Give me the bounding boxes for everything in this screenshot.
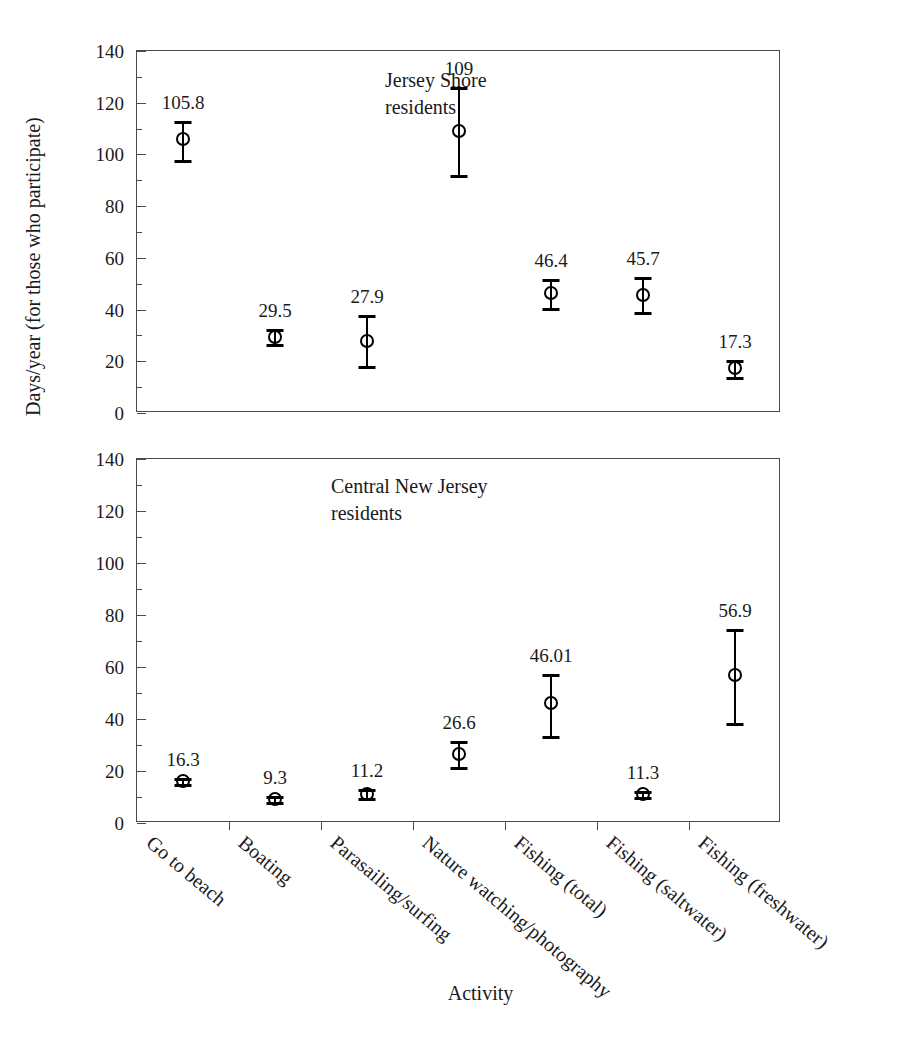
y-tick-minor [137, 77, 142, 78]
y-tick-major [137, 459, 146, 460]
y-tick-label: 140 [96, 42, 125, 61]
data-value-label: 46.4 [534, 251, 567, 270]
error-bar-cap-lower [451, 175, 468, 178]
error-bar-cap-upper [635, 277, 652, 280]
y-tick-label: 20 [105, 762, 124, 781]
panel-annotation-top: Jersey Shore residents [385, 67, 487, 121]
error-bar-cap-lower [727, 723, 744, 726]
y-tick-label: 120 [96, 93, 125, 112]
x-category-label: Nature watching/photography [419, 832, 615, 1001]
y-tick-minor [137, 589, 142, 590]
data-value-label: 16.3 [166, 750, 199, 769]
y-tick-label: 20 [105, 352, 124, 371]
y-tick-minor [137, 284, 142, 285]
x-axis-title: Activity [0, 982, 913, 1005]
y-tick-minor [137, 693, 142, 694]
x-tick [321, 821, 322, 830]
error-bar-cap-upper [727, 629, 744, 632]
y-tick-label: 100 [96, 554, 125, 573]
y-tick-minor [137, 745, 142, 746]
x-axis-title-text: Activity [448, 982, 514, 1004]
error-bar-cap-lower [267, 344, 284, 347]
y-tick-major [137, 413, 146, 414]
data-marker [176, 132, 190, 146]
y-tick-label: 40 [105, 300, 124, 319]
figure: Days/year (for those who participate) 02… [0, 0, 913, 1051]
x-category-label: Go to beach [143, 832, 230, 909]
data-value-label: 11.3 [627, 763, 660, 782]
data-marker [360, 787, 374, 801]
y-tick-minor [137, 129, 142, 130]
y-tick-label: 100 [96, 145, 125, 164]
x-category-label: Boating [235, 832, 296, 888]
error-bar-cap-lower [175, 160, 192, 163]
panel-annotation-bottom: Central New Jersey residents [331, 473, 488, 527]
error-bar-cap-upper [543, 674, 560, 677]
data-marker [268, 792, 282, 806]
error-bar-cap-lower [543, 308, 560, 311]
x-category-label: Fishing (total) [511, 832, 611, 921]
y-tick-major [137, 51, 146, 52]
data-value-label: 45.7 [626, 249, 659, 268]
y-tick-minor [137, 232, 142, 233]
y-axis-title: Days/year (for those who participate) [22, 117, 45, 416]
y-tick-minor [137, 641, 142, 642]
y-tick-major [137, 823, 146, 824]
data-value-label: 26.6 [442, 713, 475, 732]
data-value-label: 56.9 [718, 601, 751, 620]
y-tick-major [137, 258, 146, 259]
data-marker [728, 668, 742, 682]
y-tick-major [137, 206, 146, 207]
y-tick-label: 0 [115, 404, 125, 423]
y-tick-major [137, 719, 146, 720]
data-marker [452, 124, 466, 138]
x-tick [413, 821, 414, 830]
data-value-label: 17.3 [718, 332, 751, 351]
y-tick-label: 60 [105, 248, 124, 267]
panel-jersey-shore: 020406080100120140105.829.527.910946.445… [136, 50, 780, 412]
y-tick-label: 40 [105, 710, 124, 729]
error-bar-cap-lower [727, 377, 744, 380]
y-tick-major [137, 771, 146, 772]
y-tick-label: 140 [96, 450, 125, 469]
data-marker [268, 330, 282, 344]
data-marker [728, 361, 742, 375]
y-tick-label: 80 [105, 197, 124, 216]
y-tick-major [137, 615, 146, 616]
y-tick-major [137, 667, 146, 668]
data-marker [176, 774, 190, 788]
data-value-label: 11.2 [351, 761, 384, 780]
panel-central-new-jersey: 02040608010012014016.39.311.226.646.0111… [136, 458, 780, 822]
data-value-label: 9.3 [263, 768, 287, 787]
y-tick-minor [137, 180, 142, 181]
y-tick-minor [137, 797, 142, 798]
y-tick-minor [137, 485, 142, 486]
x-tick [229, 821, 230, 830]
x-tick [597, 821, 598, 830]
data-marker [544, 696, 558, 710]
y-tick-label: 80 [105, 606, 124, 625]
error-bar-cap-lower [635, 312, 652, 315]
data-marker [544, 286, 558, 300]
data-marker [636, 288, 650, 302]
y-tick-minor [137, 335, 142, 336]
y-tick-label: 0 [115, 814, 125, 833]
data-marker [636, 787, 650, 801]
error-bar-cap-lower [451, 767, 468, 770]
error-bar-cap-upper [451, 741, 468, 744]
data-marker [452, 747, 466, 761]
x-tick [505, 821, 506, 830]
error-bar-cap-lower [359, 366, 376, 369]
y-tick-major [137, 511, 146, 512]
error-bar-cap-upper [359, 315, 376, 318]
y-tick-label: 60 [105, 658, 124, 677]
error-bar-cap-lower [543, 736, 560, 739]
y-tick-minor [137, 387, 142, 388]
data-value-label: 105.8 [162, 93, 205, 112]
data-value-label: 46.01 [530, 646, 573, 665]
y-tick-minor [137, 537, 142, 538]
y-tick-major [137, 310, 146, 311]
data-value-label: 29.5 [258, 301, 291, 320]
data-marker [360, 334, 374, 348]
y-tick-major [137, 361, 146, 362]
